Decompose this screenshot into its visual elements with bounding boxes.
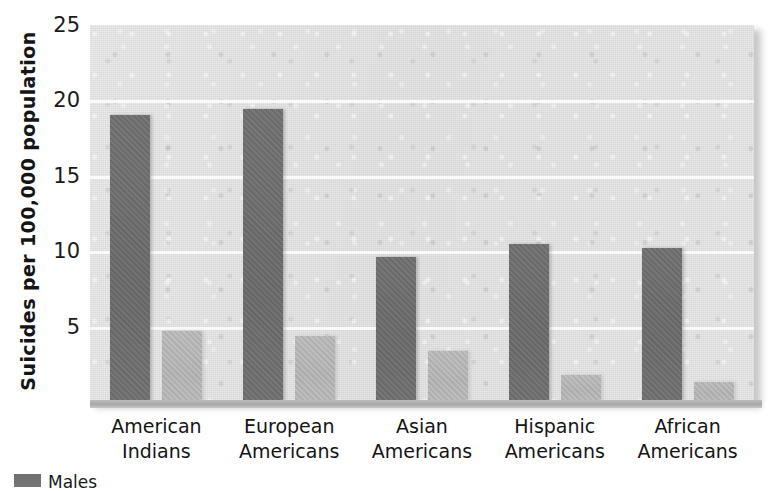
y-axis-tick-labels: 510152025: [36, 0, 80, 491]
bar-asian-americans-males: [376, 257, 416, 402]
bar-european-americans-females: [295, 336, 335, 402]
y-axis-tick-20: 20: [36, 88, 80, 112]
bar-group-container: [90, 25, 754, 402]
bar-african-americans-males: [642, 248, 682, 402]
x-axis-label-european-americans: EuropeanAmericans: [223, 414, 356, 464]
y-axis-tick-25: 25: [36, 13, 80, 37]
bar-hispanic-americans-males: [509, 244, 549, 402]
bar-european-americans-males: [243, 109, 283, 402]
bar-asian-americans-females: [428, 351, 468, 402]
legend-item-males: Males: [14, 474, 97, 491]
legend-swatch-males: [14, 474, 41, 487]
x-axis-baseline: [90, 400, 762, 408]
x-axis-category-labels: AmericanIndiansEuropeanAmericansAsianAme…: [90, 414, 754, 470]
plot-area: [90, 25, 754, 402]
y-axis-tick-5: 5: [36, 315, 80, 339]
y-axis-tick-10: 10: [36, 239, 80, 263]
x-axis-label-asian-americans: AsianAmericans: [356, 414, 489, 464]
bar-hispanic-americans-females: [561, 375, 601, 402]
x-axis-label-american-indians: AmericanIndians: [90, 414, 223, 464]
legend-label-males: Males: [48, 474, 97, 491]
bar-american-indians-females: [162, 331, 202, 402]
bar-chart-figure: Suicides per 100,000 population 51015202…: [0, 0, 778, 491]
x-axis-label-african-americans: AfricanAmericans: [621, 414, 754, 464]
x-axis-label-hispanic-americans: HispanicAmericans: [488, 414, 621, 464]
y-axis-tick-15: 15: [36, 164, 80, 188]
bar-american-indians-males: [110, 115, 150, 402]
chart-legend: Males: [14, 474, 97, 491]
